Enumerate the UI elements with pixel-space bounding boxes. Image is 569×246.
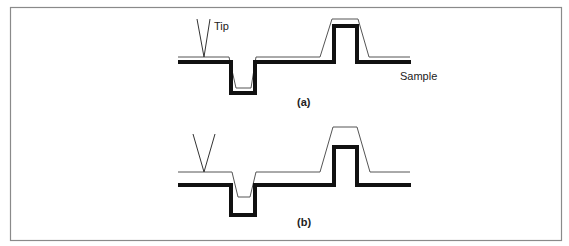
panel-b-caption: (b) (297, 216, 311, 228)
panel-b: (b) (178, 127, 411, 228)
figure-frame (11, 8, 562, 241)
panel-a: Tip Sample (a) (178, 19, 437, 108)
panel-b-sample-surface (178, 147, 411, 215)
panel-a-tip-trace (178, 19, 410, 88)
afm-tip-convolution-diagram: Tip Sample (a) (b) (0, 0, 569, 246)
panel-a-sample-label: Sample (400, 70, 437, 82)
panel-b-tip-icon (193, 134, 215, 172)
panel-a-sample-surface (178, 26, 411, 93)
panel-a-tip-icon (197, 19, 210, 57)
panel-a-tip-label: Tip (214, 20, 229, 32)
panel-a-caption: (a) (297, 96, 311, 108)
